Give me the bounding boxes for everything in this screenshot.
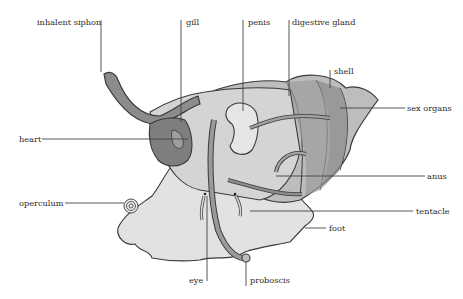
label-eye: eye — [189, 275, 203, 285]
label-shell: shell — [334, 66, 354, 76]
snail-illustration — [0, 0, 463, 299]
label-proboscis: proboscis — [250, 275, 290, 285]
label-gill: gill — [186, 17, 199, 27]
label-tentacle: tentacle — [416, 206, 450, 216]
label-foot: foot — [329, 223, 345, 233]
label-digestive-gland: digestive gland — [292, 17, 355, 27]
label-heart: heart — [19, 134, 41, 144]
label-anus: anus — [427, 171, 447, 181]
label-penis: penis — [248, 17, 270, 27]
heart-organ — [149, 118, 192, 166]
operculum-spiral — [124, 199, 138, 213]
label-inhalent-siphon: inhalent siphon — [37, 17, 101, 27]
snail-anatomy-diagram: inhalent siphon gill penis digestive gla… — [0, 0, 463, 299]
label-sex-organs: sex organs — [407, 103, 452, 113]
label-operculum: operculum — [19, 198, 63, 208]
